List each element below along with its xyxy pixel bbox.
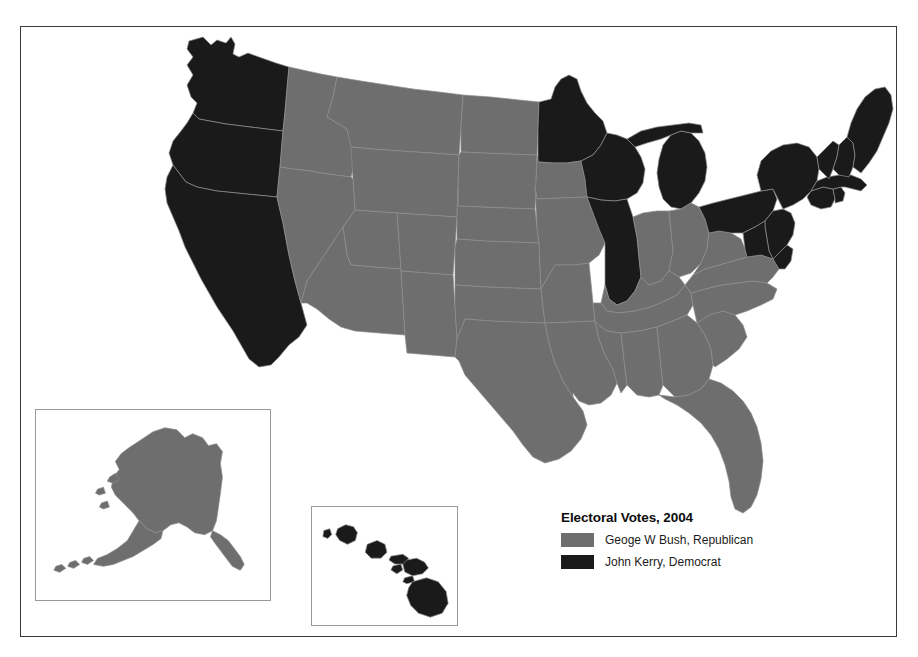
legend-row-bush: Geoge W Bush, Republican <box>561 532 861 548</box>
island-oahu <box>365 540 387 558</box>
state-michigan-lower <box>657 131 707 209</box>
state-wyoming <box>351 147 459 217</box>
alaska-panhandle <box>211 531 245 571</box>
legend-title: Electoral Votes, 2004 <box>561 510 861 525</box>
map-legend: Electoral Votes, 2004 Geoge W Bush, Repu… <box>561 510 861 576</box>
state-kansas <box>455 239 541 289</box>
state-new-mexico <box>401 271 457 357</box>
legend-label-republican: Geoge W Bush, Republican <box>605 533 753 547</box>
hawaii-inset-svg <box>312 507 457 625</box>
state-alabama <box>621 327 663 397</box>
state-rhode-island <box>833 187 845 203</box>
alaska-inset-svg <box>36 410 270 600</box>
legend-label-democrat: John Kerry, Democrat <box>605 555 721 569</box>
island-lanai <box>391 564 403 574</box>
state-utah <box>343 210 401 269</box>
state-maine <box>847 87 893 173</box>
legend-row-kerry: John Kerry, Democrat <box>561 554 861 570</box>
legend-swatch-democrat <box>561 555 594 569</box>
island-kauai <box>336 525 358 545</box>
state-north-dakota <box>461 95 539 155</box>
state-washington <box>187 37 289 131</box>
figure-frame: Electoral Votes, 2004 Geoge W Bush, Repu… <box>20 26 897 637</box>
alaska-aleutians <box>54 556 94 572</box>
state-alaska <box>111 428 222 535</box>
island-niihau <box>323 529 332 539</box>
states-layer <box>165 37 893 513</box>
island-maui <box>403 558 429 576</box>
island-hawaii <box>407 578 448 617</box>
legend-swatch-republican <box>561 533 594 547</box>
hawaii-inset-box <box>311 506 458 626</box>
state-florida <box>659 379 763 513</box>
state-colorado <box>397 213 457 275</box>
state-minnesota <box>538 75 607 163</box>
state-south-dakota <box>458 152 537 209</box>
alaska-inset-box <box>35 409 271 601</box>
